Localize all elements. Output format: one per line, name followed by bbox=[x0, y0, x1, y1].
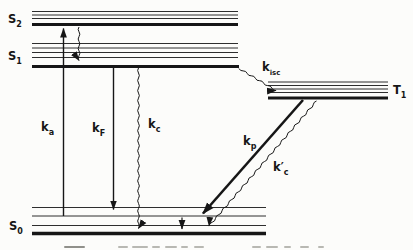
rate-symbol: k bbox=[92, 121, 100, 135]
state-subscript: 1 bbox=[401, 91, 407, 100]
state-subscript: 0 bbox=[17, 227, 23, 236]
caption-fragment bbox=[152, 246, 160, 248]
state-subscript: 2 bbox=[16, 20, 22, 29]
rate-subscript: p bbox=[251, 142, 257, 151]
s2-level-group bbox=[32, 12, 238, 25]
caption-fragment bbox=[284, 246, 291, 248]
caption-fragment bbox=[64, 246, 85, 248]
s1-state-label: S1 bbox=[8, 50, 22, 64]
caption-fragment bbox=[181, 246, 188, 248]
cutoff-caption-remnants bbox=[0, 246, 413, 250]
jablonski-energy-diagram: S2 S1 S0 T1 ka kF kc kisc kp k′c bbox=[0, 0, 413, 250]
state-symbol: T bbox=[393, 83, 401, 97]
caption-fragment bbox=[318, 246, 324, 248]
rate-label-kisc: kisc bbox=[262, 61, 280, 75]
rate-symbol: k bbox=[243, 134, 251, 148]
internal-conversion-s1-s0-wavy-arrow-kc bbox=[138, 68, 140, 229]
diagram-canvas bbox=[0, 0, 413, 250]
caption-fragment bbox=[165, 246, 177, 248]
rate-label-kc-prime: k′c bbox=[273, 161, 288, 175]
rate-label-kp: kp bbox=[243, 135, 256, 149]
caption-fragment bbox=[252, 246, 261, 248]
t1-state-label: T1 bbox=[393, 84, 406, 98]
phosphorescence-arrow-kp bbox=[203, 100, 303, 214]
rate-label-ka: ka bbox=[41, 121, 54, 135]
s0-level-group bbox=[32, 208, 266, 234]
caption-fragment bbox=[118, 246, 128, 248]
rate-label-kf: kF bbox=[92, 122, 105, 136]
caption-fragment bbox=[300, 246, 309, 248]
state-subscript: 1 bbox=[16, 57, 22, 66]
caption-fragment bbox=[194, 246, 204, 248]
caption-fragment bbox=[266, 246, 278, 248]
rate-subscript: F bbox=[100, 129, 105, 138]
rate-symbol: k bbox=[41, 120, 49, 134]
t1-level-group bbox=[268, 82, 388, 98]
rate-subscript: c bbox=[284, 168, 289, 177]
rate-subscript: isc bbox=[270, 69, 281, 77]
rate-label-kc: kc bbox=[148, 118, 160, 132]
rate-symbol: k′ bbox=[273, 160, 284, 174]
rate-subscript: a bbox=[49, 128, 54, 137]
caption-fragment bbox=[132, 246, 148, 248]
rate-subscript: c bbox=[156, 125, 161, 134]
rate-symbol: k bbox=[262, 60, 270, 74]
s0-state-label: S0 bbox=[9, 220, 23, 234]
rate-symbol: k bbox=[148, 117, 156, 131]
s2-state-label: S2 bbox=[8, 13, 22, 27]
